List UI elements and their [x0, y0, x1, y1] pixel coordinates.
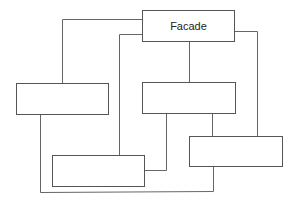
node-facade: Facade [143, 11, 235, 42]
edge-facade-to-left [63, 20, 143, 84]
node-subsystem-left [17, 84, 109, 115]
edge-middle-to-bottom-left [145, 114, 167, 171]
subsystem-bottom-right-box [190, 137, 283, 167]
node-subsystem-middle [143, 83, 236, 114]
subsystem-left-box [17, 84, 109, 115]
facade-label: Facade [170, 20, 207, 32]
facade-diagram: Facade [0, 0, 297, 201]
subsystem-bottom-left-box [53, 156, 145, 187]
edge-facade-to-bottom-right [235, 32, 258, 137]
subsystem-middle-box [143, 83, 236, 114]
edge-facade-to-bottom-left [120, 35, 143, 156]
node-subsystem-bottom-left [53, 156, 145, 187]
node-subsystem-bottom-right [190, 137, 283, 167]
